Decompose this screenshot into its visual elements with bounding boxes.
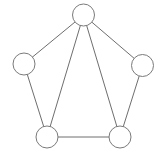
- node-left: [13, 53, 35, 75]
- node-right: [132, 55, 154, 77]
- nodes-group: [13, 4, 154, 148]
- edge-top-bottom-left: [47, 15, 84, 137]
- edges-group: [24, 15, 143, 137]
- node-bottom-left: [36, 126, 58, 148]
- edge-top-bottom-right: [84, 15, 121, 137]
- edge-top-right: [84, 15, 143, 66]
- edge-top-left: [24, 15, 84, 64]
- graph-diagram: [0, 0, 161, 161]
- node-bottom-right: [109, 126, 131, 148]
- node-top: [73, 4, 95, 26]
